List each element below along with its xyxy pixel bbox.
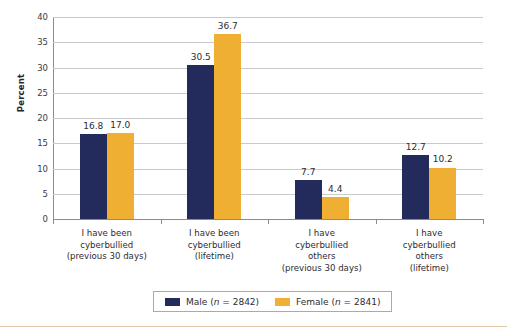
- gridline-20: [53, 118, 483, 119]
- gridline-30: [53, 68, 483, 69]
- bar-female-0[interactable]: [107, 133, 134, 219]
- x-category-label-line: others: [376, 251, 484, 263]
- y-tick-label: 5: [26, 190, 48, 199]
- x-category-label-line: I have been: [161, 228, 269, 240]
- x-category-label-3: I havecyberbulliedothers(lifetime): [376, 228, 484, 274]
- y-tick-label: 15: [26, 139, 48, 148]
- legend-swatch-icon: [275, 298, 290, 306]
- x-category-label-line: I have: [268, 228, 376, 240]
- bar-value-label: 10.2: [423, 155, 462, 164]
- y-axis-ticks: 0510152025303540: [22, 17, 48, 219]
- x-tick-mark: [161, 219, 162, 224]
- y-tick-label: 30: [26, 63, 48, 72]
- x-category-label-line: (previous 30 days): [268, 263, 376, 275]
- bar-male-0[interactable]: [80, 134, 107, 219]
- x-tick-mark: [268, 219, 269, 224]
- x-category-label-2: I havecyberbulliedothers(previous 30 day…: [268, 228, 376, 274]
- x-tick-mark: [483, 219, 484, 224]
- gridline-40: [53, 17, 483, 18]
- legend-item-male[interactable]: Male (n = 2842): [165, 297, 259, 307]
- x-category-label-line: (lifetime): [376, 263, 484, 275]
- chart-legend: Male (n = 2842)Female (n = 2841): [153, 291, 392, 312]
- x-category-label-line: I have been: [53, 228, 161, 240]
- legend-swatch-icon: [165, 298, 180, 306]
- y-tick-label: 35: [26, 38, 48, 47]
- x-category-label-0: I have beencyberbullied(previous 30 days…: [53, 228, 161, 263]
- chart-figure: Percent 0510152025303540 16.830.57.712.7…: [0, 0, 507, 333]
- y-tick-label: 25: [26, 89, 48, 98]
- gridline-25: [53, 93, 483, 94]
- bottom-divider: [0, 326, 507, 327]
- bar-value-label: 12.7: [396, 143, 435, 152]
- bar-female-2[interactable]: [322, 197, 349, 219]
- x-category-label-line: others: [268, 251, 376, 263]
- x-category-label-line: (previous 30 days): [53, 251, 161, 263]
- x-category-label-line: cyberbullied: [268, 240, 376, 252]
- legend-label: Female (n = 2841): [296, 297, 380, 307]
- y-tick-label: 0: [26, 215, 48, 224]
- plot-area: 16.830.57.712.717.036.74.410.2: [53, 17, 483, 219]
- bar-female-3[interactable]: [429, 168, 456, 220]
- bar-value-label: 36.7: [208, 22, 247, 31]
- bar-male-1[interactable]: [187, 65, 214, 219]
- bar-female-1[interactable]: [214, 34, 241, 219]
- bar-value-label: 7.7: [289, 168, 328, 177]
- bar-male-3[interactable]: [402, 155, 429, 219]
- bar-value-label: 17.0: [101, 121, 140, 130]
- x-category-label-line: cyberbullied: [53, 240, 161, 252]
- x-category-label-1: I have beencyberbullied(lifetime): [161, 228, 269, 263]
- x-category-label-line: I have: [376, 228, 484, 240]
- bar-value-label: 4.4: [316, 185, 355, 194]
- legend-label: Male (n = 2842): [186, 297, 259, 307]
- x-tick-mark: [53, 219, 54, 224]
- gridline-35: [53, 42, 483, 43]
- y-tick-label: 20: [26, 114, 48, 123]
- x-category-label-line: (lifetime): [161, 251, 269, 263]
- x-category-label-line: cyberbullied: [161, 240, 269, 252]
- x-tick-mark: [376, 219, 377, 224]
- x-category-label-line: cyberbullied: [376, 240, 484, 252]
- legend-item-female[interactable]: Female (n = 2841): [275, 297, 380, 307]
- y-tick-label: 40: [26, 13, 48, 22]
- y-tick-label: 10: [26, 164, 48, 173]
